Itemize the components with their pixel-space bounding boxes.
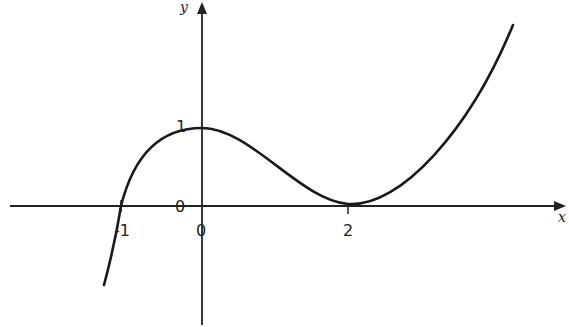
tick-label-y-1: 1 <box>176 117 186 136</box>
tick-label-x-neg1: -1 <box>114 221 130 240</box>
y-axis-label: y <box>179 0 189 15</box>
x-axis-label: x <box>558 209 566 225</box>
y-axis-arrow-icon <box>197 2 207 14</box>
tick-label-x-0: 0 <box>196 221 206 240</box>
tick-label-x-2: 2 <box>343 221 353 240</box>
origin-label: 0 <box>175 197 185 216</box>
function-curve <box>104 25 513 285</box>
function-graph: x y 0 -1 0 2 1 <box>0 0 569 327</box>
